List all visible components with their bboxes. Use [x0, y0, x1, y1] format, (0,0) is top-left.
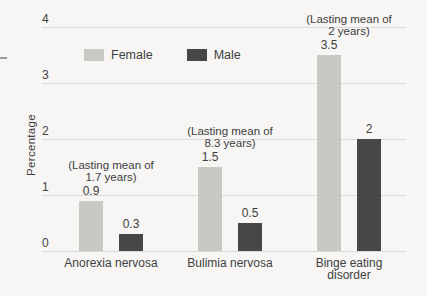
bar-female-3 — [317, 55, 341, 251]
category-label: Binge eating disorder — [294, 257, 404, 281]
value-label: 0.3 — [101, 217, 161, 231]
bar-chart-figure: Percentage 012340.90.3Anorexia nervosa1.… — [0, 0, 427, 296]
y-tick-label: 0 — [42, 236, 49, 250]
y-tick-label: 4 — [42, 12, 49, 26]
value-label: 0.9 — [61, 184, 121, 198]
annotation-line: (Lasting mean of — [284, 13, 414, 25]
bar-female-1 — [79, 201, 103, 251]
legend-item-female: Female — [84, 48, 153, 62]
male-swatch-icon — [187, 49, 207, 61]
annotation-line: 2 years) — [284, 25, 414, 37]
bar-male-1 — [119, 234, 143, 251]
bar-male-3 — [357, 139, 381, 251]
bar-male-2 — [238, 223, 262, 251]
left-edge-mark — [0, 57, 7, 59]
annotation-lasting-mean: (Lasting mean of8.3 years) — [165, 125, 295, 149]
legend-label-female: Female — [111, 48, 153, 62]
value-label: 0.5 — [220, 206, 280, 220]
category-label: Bulimia nervosa — [175, 257, 285, 269]
legend: Female Male — [84, 48, 241, 62]
value-label: 2 — [339, 122, 399, 136]
category-label: Anorexia nervosa — [56, 257, 166, 269]
annotation-line: (Lasting mean of — [165, 125, 295, 137]
y-axis-label: Percentage — [25, 114, 37, 176]
annotation-lasting-mean: (Lasting mean of1.7 years) — [46, 159, 176, 183]
bar-female-2 — [198, 167, 222, 251]
value-label: 1.5 — [180, 150, 240, 164]
annotation-line: 8.3 years) — [165, 137, 295, 149]
female-swatch-icon — [84, 49, 104, 61]
legend-label-male: Male — [214, 48, 241, 62]
annotation-lasting-mean: (Lasting mean of2 years) — [284, 13, 414, 37]
gridline-y3 — [42, 83, 406, 84]
annotation-line: 1.7 years) — [46, 171, 176, 183]
legend-item-male: Male — [187, 48, 241, 62]
y-tick-label: 3 — [42, 68, 49, 82]
value-label: 3.5 — [299, 38, 359, 52]
annotation-line: (Lasting mean of — [46, 159, 176, 171]
gridline-y0 — [42, 251, 406, 252]
y-tick-label: 2 — [42, 124, 49, 138]
